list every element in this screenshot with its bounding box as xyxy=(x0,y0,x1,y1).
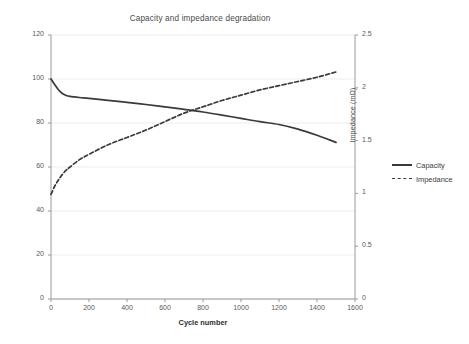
y-axis-left-tick-label: 80 xyxy=(18,118,44,125)
y-axis-right-tick-label: 2.5 xyxy=(362,30,388,37)
x-axis-tick-label: 1400 xyxy=(302,304,332,311)
legend-label-capacity: Capacity xyxy=(416,161,445,170)
data-series xyxy=(51,72,336,195)
series-line-impedance xyxy=(51,72,336,195)
x-axis-tick-label: 200 xyxy=(74,304,104,311)
x-axis-tick-label: 0 xyxy=(36,304,66,311)
x-axis-tick-label: 1000 xyxy=(226,304,256,311)
x-axis-title: Cycle number xyxy=(51,318,355,327)
legend-line-dashed-icon xyxy=(392,175,412,183)
y-axis-right-tick-label: 2 xyxy=(362,83,388,90)
y-axis-right-tick-label: 1.5 xyxy=(362,136,388,143)
chart-title: Capacity and impedance degradation xyxy=(0,14,400,23)
gridlines xyxy=(51,35,355,299)
x-axis-tick-label: 600 xyxy=(150,304,180,311)
y-axis-left-tick-label: 60 xyxy=(18,162,44,169)
y-axis-left-tick-label: 120 xyxy=(18,30,44,37)
legend-item-impedance[interactable]: Impedance xyxy=(392,172,453,186)
y-axis-right-tick-label: 0 xyxy=(362,294,388,301)
x-axis-tick-label: 400 xyxy=(112,304,142,311)
x-axis-tick-label: 1200 xyxy=(264,304,294,311)
y-axis-left-tick-label: 100 xyxy=(18,74,44,81)
legend-label-impedance: Impedance xyxy=(416,175,453,184)
x-axis-tick-label: 800 xyxy=(188,304,218,311)
legend-item-capacity[interactable]: Capacity xyxy=(392,158,453,172)
y-axis-left-tick-label: 20 xyxy=(18,250,44,257)
chart-container: Capacity and impedance degradation Capac… xyxy=(0,0,469,344)
y-axis-right-title: Impedance (mΩ) xyxy=(348,60,357,170)
legend-line-solid-icon xyxy=(392,161,412,169)
y-axis-left-tick-label: 40 xyxy=(18,206,44,213)
y-axis-right-tick-label: 0.5 xyxy=(362,241,388,248)
axis-lines xyxy=(48,35,358,302)
chart-legend: Capacity Impedance xyxy=(392,158,453,186)
y-axis-left-tick-label: 0 xyxy=(18,294,44,301)
y-axis-right-tick-label: 1 xyxy=(362,188,388,195)
x-axis-tick-label: 1600 xyxy=(340,304,370,311)
